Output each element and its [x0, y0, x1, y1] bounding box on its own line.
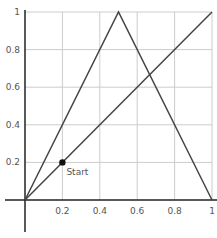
chart: 0.20.40.60.81 0.20.40.60.81 Start: [0, 0, 217, 238]
axes: [5, 10, 217, 232]
series-lines: [25, 12, 212, 200]
x-tick-labels: 0.20.40.60.81: [55, 206, 215, 216]
series-line: [25, 12, 212, 200]
y-tick-label: 0.8: [6, 45, 21, 55]
x-tick-label: 1: [209, 206, 215, 216]
y-tick-label: 0.4: [6, 120, 21, 130]
start-point-marker: [59, 159, 65, 165]
x-tick-label: 0.6: [130, 206, 145, 216]
x-tick-label: 0.2: [55, 206, 69, 216]
y-tick-label: 0.2: [6, 157, 20, 167]
x-tick-label: 0.4: [93, 206, 108, 216]
y-tick-label: 0.6: [6, 82, 21, 92]
x-tick-label: 0.8: [167, 206, 182, 216]
y-tick-labels: 0.20.40.60.81: [6, 7, 21, 167]
start-point-label: Start: [66, 167, 88, 177]
y-tick-label: 1: [14, 7, 20, 17]
